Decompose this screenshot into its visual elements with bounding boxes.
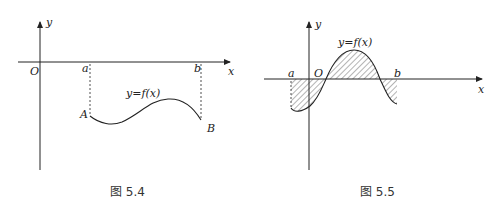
y-axis-label: y <box>314 18 322 31</box>
origin-label: O <box>314 67 323 80</box>
point-a-label: A <box>79 108 88 121</box>
x-axis-label: x <box>228 65 235 78</box>
function-label: y=f(x) <box>125 87 160 100</box>
figure-5-5: y x O a b y=f(x) 图 5.5 <box>250 0 494 205</box>
point-b-label: B <box>206 122 215 135</box>
a-label: a <box>82 62 89 75</box>
b-label: b <box>394 67 401 80</box>
figure-5-4: y x O a b A B y=f(x) 图 5.4 <box>0 0 250 205</box>
x-axis-label: x <box>478 83 485 96</box>
figure-5-5-plot: y x O a b y=f(x) 图 5.5 <box>250 0 494 205</box>
b-label: b <box>194 62 201 75</box>
figure-5-4-plot: y x O a b A B y=f(x) 图 5.4 <box>0 0 250 205</box>
a-label: a <box>288 67 295 80</box>
figure-caption: 图 5.5 <box>360 185 395 199</box>
function-curve <box>90 99 201 124</box>
figure-caption: 图 5.4 <box>110 185 145 199</box>
function-label: y=f(x) <box>337 36 372 49</box>
y-axis-label: y <box>45 16 53 29</box>
hatched-region-right <box>380 79 397 104</box>
origin-label: O <box>30 65 39 78</box>
